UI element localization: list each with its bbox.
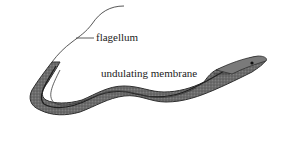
kinetoplast-dot <box>250 61 253 64</box>
flagellum-label: flagellum <box>96 32 138 43</box>
undulating-membrane-label: undulating membrane <box>101 68 197 79</box>
diagram-canvas: flagellum undulating membrane <box>0 0 290 150</box>
